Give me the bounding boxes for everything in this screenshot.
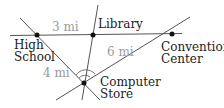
distance-store-convention: 6 mi (107, 45, 134, 59)
label-computer-store-2: Store (100, 87, 133, 101)
label-library: Library (98, 17, 143, 31)
point-library (91, 33, 96, 38)
point-convention-center (170, 32, 175, 37)
distance-hs-store: 4 mi (43, 66, 70, 80)
label-high-school-2: School (14, 50, 55, 64)
map-diagram: High School Library Convention Center Co… (0, 0, 224, 108)
angle-arc-inner (79, 75, 90, 78)
point-high-school (35, 33, 40, 38)
angle-arc (76, 70, 95, 75)
label-convention-2: Center (161, 52, 203, 66)
distance-hs-library: 3 mi (52, 20, 79, 34)
point-computer-store (82, 81, 87, 86)
diagram-canvas: High School Library Convention Center Co… (0, 0, 224, 108)
road-library-store (82, 5, 98, 100)
